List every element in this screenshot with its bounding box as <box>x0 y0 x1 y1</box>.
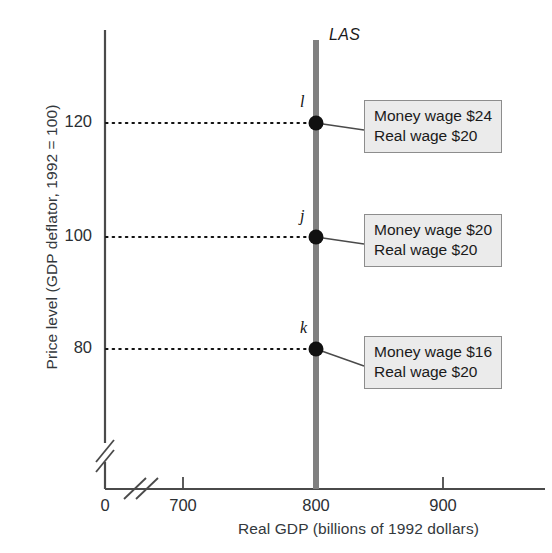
annotation-j-real-wage: Real wage $20 <box>374 240 492 260</box>
x-tick-label-origin: 0 <box>75 496 135 515</box>
point-label-l: l <box>300 93 304 111</box>
data-point-j <box>309 230 324 245</box>
y-axis-title: Price level (GDP deflator, 1992 = 100) <box>43 67 61 407</box>
leader-line-k <box>316 349 364 366</box>
data-point-l <box>309 116 324 131</box>
las-curve-label: LAS <box>329 26 360 44</box>
x-axis-title: Real GDP (billions of 1992 dollars) <box>238 520 479 538</box>
annotation-l-money-wage: Money wage $24 <box>374 106 492 126</box>
annotation-k-real-wage: Real wage $20 <box>374 362 492 382</box>
x-tick-label-900: 900 <box>413 496 473 515</box>
point-label-j: j <box>300 207 304 225</box>
annotation-box-l: Money wage $24 Real wage $20 <box>364 100 502 153</box>
annotation-box-k: Money wage $16 Real wage $20 <box>364 336 502 389</box>
annotation-box-j: Money wage $20 Real wage $20 <box>364 214 502 267</box>
annotation-l-real-wage: Real wage $20 <box>374 126 492 146</box>
x-tick-label-700: 700 <box>153 496 213 515</box>
las-chart-figure: LAS l j k 120 100 80 0 700 800 900 Price… <box>0 0 552 553</box>
data-point-k <box>309 342 324 357</box>
y-tick-label-120: 120 <box>32 112 92 131</box>
y-tick-label-100: 100 <box>32 226 92 245</box>
x-tick-label-800: 800 <box>286 496 346 515</box>
chart-canvas <box>0 0 552 553</box>
y-tick-label-80: 80 <box>32 338 92 357</box>
point-label-k: k <box>300 319 307 337</box>
annotation-k-money-wage: Money wage $16 <box>374 342 492 362</box>
annotation-j-money-wage: Money wage $20 <box>374 220 492 240</box>
y-axis-break-mark <box>96 440 114 462</box>
